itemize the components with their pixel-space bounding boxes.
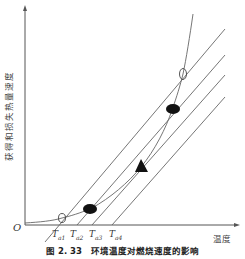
heat-loss-line-ta3	[92, 75, 225, 225]
heat-loss-line-ta2	[77, 55, 225, 225]
tick-ta1: Ta1	[52, 229, 65, 241]
filled-ellipse-marker-low	[83, 204, 97, 214]
y-axis-arrow-icon	[23, 5, 27, 11]
tick-ta4: Ta4	[109, 229, 122, 241]
origin-label: O	[13, 222, 21, 233]
figure-caption: 图 2. 33 环境温度对燃烧速度的影响	[0, 244, 245, 256]
heat-loss-line-ta4	[112, 97, 225, 225]
tick-ta3: Ta3	[89, 229, 102, 241]
figure: 获得和损失热量速度 O Ta1 Ta2 Ta3 Ta4 温度 图 2. 33 环…	[0, 0, 245, 259]
y-axis-label: 获得和损失热量速度	[2, 46, 14, 186]
tick-ta2: Ta2	[70, 229, 83, 241]
heat-loss-line-ta1	[45, 29, 225, 242]
filled-ellipse-marker-high	[166, 104, 180, 114]
diagram-canvas	[0, 0, 245, 259]
x-axis-label: 温度	[213, 232, 231, 244]
heat-generation-curve	[25, 14, 193, 223]
x-axis-arrow-icon	[234, 223, 240, 227]
